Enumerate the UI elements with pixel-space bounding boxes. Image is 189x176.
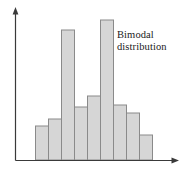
- histogram-bar: [75, 107, 88, 160]
- annotation-line-1: Bimodal: [117, 29, 183, 41]
- histogram-bar: [127, 113, 140, 160]
- y-axis: [13, 7, 19, 161]
- y-axis-arrow-icon: [13, 7, 19, 15]
- histogram-bar: [101, 20, 114, 160]
- bimodal-histogram-figure: Bimodal distribution: [0, 0, 189, 176]
- histogram-bar: [140, 135, 153, 160]
- histogram-bar: [36, 126, 49, 160]
- bimodal-distribution-label: Bimodal distribution: [117, 29, 183, 52]
- chart-canvas: [0, 0, 189, 176]
- annotation-line-2: distribution: [117, 41, 183, 53]
- histogram-bar: [114, 105, 127, 160]
- histogram-bar: [62, 30, 75, 160]
- x-axis-arrow-icon: [172, 158, 180, 164]
- histogram-bar: [49, 119, 62, 160]
- histogram-bar: [88, 96, 101, 160]
